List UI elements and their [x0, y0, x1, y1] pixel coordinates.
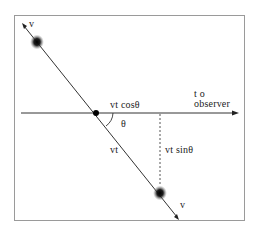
label-theta: θ	[121, 119, 126, 129]
label-vt: vt	[110, 145, 118, 155]
source-blob-start	[30, 35, 44, 50]
label-vt-cos-theta: vt cosθ	[110, 100, 140, 110]
label-v-top: v	[29, 19, 34, 29]
arrowhead-to-observer-icon	[232, 111, 239, 116]
label-v-bottom: v	[180, 200, 185, 210]
diagram-canvas	[0, 0, 256, 230]
origin-point	[93, 110, 99, 116]
label-vt-sin-theta: vt sinθ	[165, 145, 193, 155]
theta-angle-arc	[106, 113, 113, 126]
trajectory-line	[24, 26, 177, 217]
source-blob-end	[153, 186, 167, 201]
frame	[15, 16, 245, 221]
label-observer: observer	[194, 99, 230, 109]
